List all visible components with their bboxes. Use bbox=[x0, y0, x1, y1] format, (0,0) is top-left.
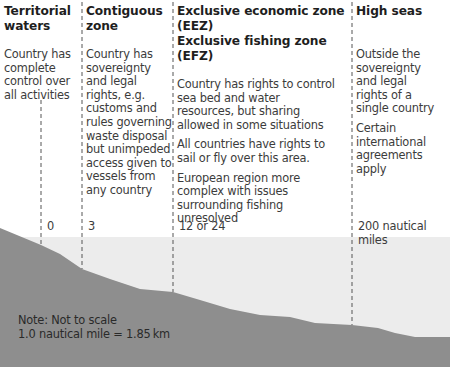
zone-paragraph: Country has rights to control sea bed an… bbox=[177, 78, 337, 132]
zone-title-line: Exclusive economic zone (EEZ) bbox=[177, 4, 349, 34]
zone-paragraph: Outside the sovereignty and legal rights… bbox=[356, 48, 440, 116]
zone-description: Country has rights to control sea bed an… bbox=[177, 78, 337, 226]
zone-title: Contiguous zone bbox=[86, 4, 172, 34]
boundary-label-3: 3 bbox=[88, 219, 95, 233]
zone-description: Country has complete control over all ac… bbox=[4, 48, 80, 102]
zone-description: Country has sovereignty and legal rights… bbox=[86, 48, 172, 198]
zone-paragraph: All countries have rights to sail or fly… bbox=[177, 138, 337, 165]
zone-title: Exclusive economic zone (EEZ) Exclusive … bbox=[177, 4, 349, 64]
zone-paragraph: Certain international agreements apply bbox=[356, 122, 440, 176]
zone-paragraph: Country has sovereignty and legal rights… bbox=[86, 48, 172, 198]
zone-title-line: Territorial bbox=[4, 4, 80, 19]
zone-title-line: High seas bbox=[356, 4, 452, 19]
note-line-conversion: 1.0 nautical mile = 1.85 km bbox=[18, 327, 170, 341]
zone-title-line: Contiguous bbox=[86, 4, 172, 19]
zone-paragraph: European region more complex with issues… bbox=[177, 172, 337, 226]
zone-title-line: zone bbox=[86, 19, 172, 34]
zone-title-line: Exclusive fishing zone (EFZ) bbox=[177, 34, 349, 64]
boundary-label-200: 200 nautical miles bbox=[358, 219, 454, 247]
zone-paragraph: Country has complete control over all ac… bbox=[4, 48, 80, 102]
zone-contiguous: Contiguous zone Country has sovereignty … bbox=[86, 4, 172, 204]
zone-title: High seas bbox=[356, 4, 452, 19]
zone-eez: Exclusive economic zone (EEZ) Exclusive … bbox=[177, 4, 349, 232]
note-line-scale: Note: Not to scale bbox=[18, 313, 170, 327]
boundary-label-12-or-24: 12 or 24 bbox=[179, 219, 225, 233]
scale-note: Note: Not to scale 1.0 nautical mile = 1… bbox=[18, 313, 170, 341]
zone-title: Territorial waters bbox=[4, 4, 80, 34]
zone-title-line: waters bbox=[4, 19, 80, 34]
zone-high-seas: High seas Outside the sovereignty and le… bbox=[356, 4, 452, 182]
zone-territorial: Territorial waters Country has complete … bbox=[4, 4, 80, 108]
boundary-label-0: 0 bbox=[47, 219, 54, 233]
zone-description: Outside the sovereignty and legal rights… bbox=[356, 48, 440, 176]
